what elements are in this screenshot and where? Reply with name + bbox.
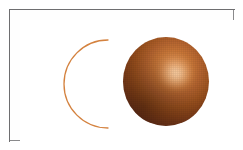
sphere-rim-light bbox=[123, 37, 209, 126]
illustration-canvas bbox=[20, 20, 243, 150]
sphere-specular-highlight bbox=[161, 58, 192, 88]
sphere-terminator-shadow bbox=[123, 37, 209, 126]
shaded-sphere bbox=[123, 37, 209, 126]
figure-root bbox=[0, 0, 243, 150]
crescent-arc-path bbox=[64, 40, 108, 128]
figure-frame bbox=[9, 9, 234, 141]
sphere-halftone-grain bbox=[123, 37, 209, 126]
